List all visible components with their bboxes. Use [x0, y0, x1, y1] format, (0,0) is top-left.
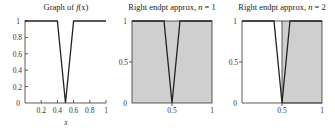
svg-text:1: 1	[16, 17, 20, 26]
svg-text:1: 1	[123, 17, 127, 26]
svg-text:0.8: 0.8	[85, 106, 95, 115]
panel2-title: Right endpt approx, n = 1	[128, 2, 215, 12]
x-tick-labels: 0.5 1	[167, 106, 214, 115]
svg-text:0.4: 0.4	[53, 106, 63, 115]
svg-text:0: 0	[16, 99, 20, 108]
svg-text:0.2: 0.2	[13, 83, 23, 92]
svg-text:0: 0	[233, 99, 237, 108]
svg-text:0.5: 0.5	[119, 58, 129, 67]
svg-text:1: 1	[104, 106, 108, 115]
svg-text:0.8: 0.8	[13, 33, 23, 42]
figure: Graph of f(x) 0 0.2 0.4 0.6 0.8 1 0.2 0.…	[0, 0, 335, 131]
svg-text:0: 0	[123, 99, 127, 108]
rectangle-1	[132, 21, 212, 103]
svg-text:0.5: 0.5	[229, 58, 239, 67]
panel1-title: Graph of f(x)	[44, 2, 89, 12]
svg-text:1: 1	[320, 106, 324, 115]
svg-text:1: 1	[233, 17, 237, 26]
y-tick-labels: 0 0.5 1	[229, 17, 239, 108]
rectangle-2	[282, 21, 322, 103]
svg-text:0.2: 0.2	[37, 106, 47, 115]
x-tick-labels: 0.5 1	[277, 106, 324, 115]
y-tick-labels: 0 0.2 0.4 0.6 0.8 1	[13, 17, 23, 108]
y-tick-labels: 0 0.5 1	[119, 17, 129, 108]
svg-text:0.6: 0.6	[13, 50, 23, 59]
panel-right-endpt-n1: Right endpt approx, n = 1 0 0.5 1 0.5 1	[119, 2, 216, 115]
svg-text:0.5: 0.5	[277, 106, 287, 115]
svg-text:1: 1	[210, 106, 214, 115]
x-axis-label: x	[63, 118, 68, 127]
x-tick-labels: 0.2 0.4 0.6 0.8 1	[37, 106, 109, 115]
svg-text:0.5: 0.5	[167, 106, 177, 115]
function-line	[25, 21, 106, 103]
panel3-title: Right endpt approx, n = 2	[238, 2, 325, 12]
svg-text:0.6: 0.6	[69, 106, 79, 115]
panel-right-endpt-n2: Right endpt approx, n = 2 0 0.5 1 0.5 1	[229, 2, 326, 115]
panel-graph-of-f: Graph of f(x) 0 0.2 0.4 0.6 0.8 1 0.2 0.…	[13, 2, 109, 127]
svg-text:0.4: 0.4	[13, 66, 23, 75]
